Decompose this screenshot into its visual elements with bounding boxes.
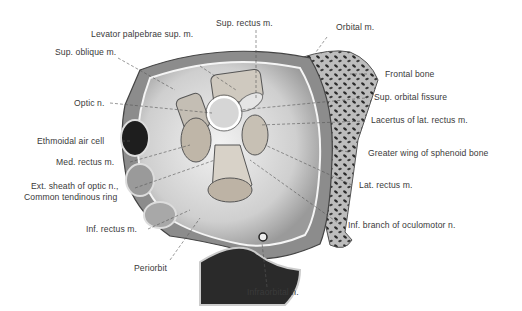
label-inf-rectus: Inf. rectus m.: [86, 224, 137, 234]
label-optic-nerve: Optic n.: [74, 98, 104, 108]
label-levator: Levator palpebrae sup. m.: [91, 29, 193, 39]
ethmoidal-air-cell: [121, 120, 149, 156]
infraorbital-nerve: [259, 233, 267, 241]
label-common-tendinous-ring: Common tendinous ring: [24, 192, 117, 202]
label-lacertus: Lacertus of lat. rectus m.: [371, 115, 468, 125]
label-ethmoidal-air-cell: Ethmoidal air cell: [37, 136, 104, 146]
med-rectus-muscle: [181, 118, 211, 162]
optic-nerve: [208, 97, 240, 129]
label-greater-wing: Greater wing of sphenoid bone: [368, 148, 488, 158]
label-frontal-bone: Frontal bone: [385, 69, 434, 79]
label-inf-branch-oculomotor: Inf. branch of oculomotor n.: [348, 220, 455, 230]
label-lat-rectus: Lat. rectus m.: [359, 180, 412, 190]
label-sup-orbital-fissure: Sup. orbital fissure: [374, 92, 447, 102]
label-periorbit: Periorbit: [134, 263, 167, 273]
lat-rectus-muscle: [242, 115, 268, 155]
label-sup-oblique: Sup. oblique m.: [55, 47, 116, 57]
label-med-rectus: Med. rectus m.: [56, 157, 114, 167]
label-orbital-muscle: Orbital m.: [336, 22, 374, 32]
label-sup-rectus: Sup. rectus m.: [216, 18, 273, 28]
label-ext-sheath: Ext. sheath of optic n.,: [31, 181, 118, 191]
label-infraorbital-nerve: Infraorbital n.: [247, 287, 299, 297]
